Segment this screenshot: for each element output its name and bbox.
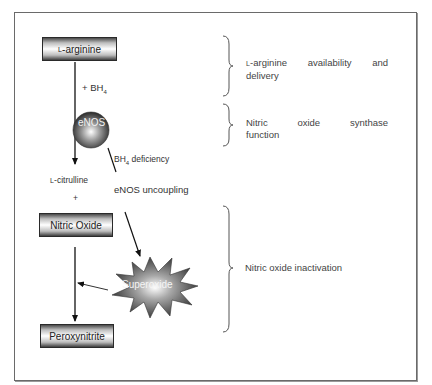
enos-label: eNOS xyxy=(78,117,105,128)
annotation-nos-function: Nitric oxide synthase function xyxy=(246,117,388,141)
l-arginine-box: L-arginine xyxy=(42,37,117,61)
brace-nos xyxy=(223,104,233,146)
annotation-arginine: L-arginine availability and delivery xyxy=(246,57,388,82)
bh4-deficiency-label: BH4 deficiency xyxy=(114,154,169,166)
bh4-cofactor-label: + BH4 xyxy=(82,82,107,95)
superoxide-label: Superoxide xyxy=(122,279,173,290)
plus-sign: + xyxy=(73,193,78,203)
peroxynitrite-box: Peroxynitrite xyxy=(40,324,114,348)
nitric-oxide-box: Nitric Oxide xyxy=(39,213,113,237)
brace-inactivation xyxy=(223,206,233,332)
l-citrulline-label: L-citrulline xyxy=(50,175,88,185)
brace-arginine xyxy=(223,36,233,96)
enos-uncoupling-label: eNOS uncoupling xyxy=(114,184,188,195)
annotation-no-inactivation: Nitric oxide inactivation xyxy=(245,262,342,274)
